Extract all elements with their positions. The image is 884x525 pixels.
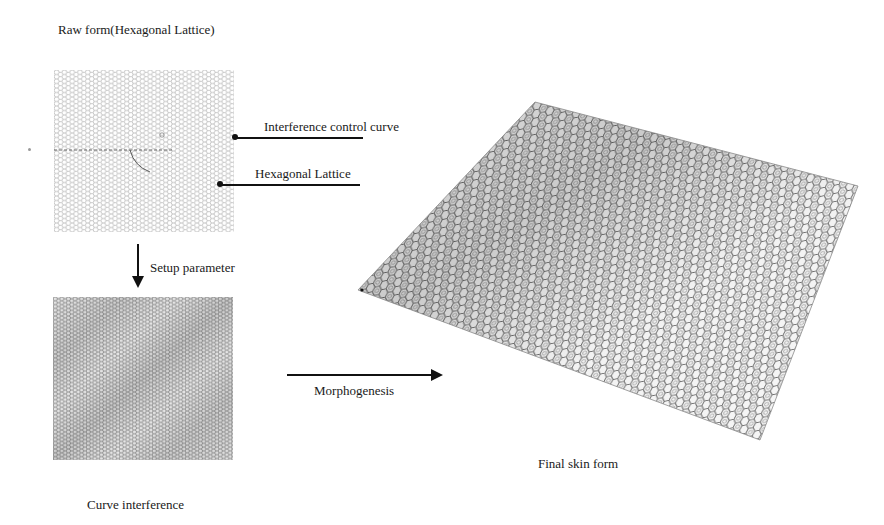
perforated-skin-graphic (340, 90, 884, 450)
hex-lattice-graphic (54, 70, 234, 232)
callout-label-lattice: Hexagonal Lattice (255, 166, 351, 182)
final-skin-caption: Final skin form (538, 456, 618, 472)
raw-form-title: Raw form(Hexagonal Lattice) (58, 22, 215, 38)
raw-hexagonal-lattice (54, 70, 234, 232)
final-skin-form (340, 90, 884, 450)
interfered-lattice-graphic (53, 297, 233, 460)
down-arrow-icon (132, 244, 144, 288)
setup-parameter-label: Setup parameter (150, 260, 235, 276)
curve-interference-lattice (53, 297, 233, 460)
curve-interference-caption: Curve interference (87, 497, 184, 513)
callout-line-lattice (220, 184, 360, 186)
axis-origin-marker (28, 148, 31, 151)
